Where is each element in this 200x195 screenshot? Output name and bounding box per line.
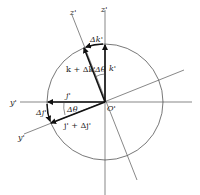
y-prime-label: y' bbox=[9, 98, 17, 107]
dj-arc bbox=[47, 104, 50, 121]
rotating-frame-diagram: z' z' y' y' O' Δk' k + Δk' Δθ k' j' Δj' … bbox=[0, 0, 200, 195]
j-plus-dj-vector bbox=[51, 102, 105, 123]
z-double-prime-label: z' bbox=[69, 8, 76, 17]
j-plus-dj-label: j' + Δj' bbox=[63, 121, 91, 130]
dk-label: Δk' bbox=[89, 35, 103, 44]
j-label: j' bbox=[64, 91, 71, 100]
dk-arc bbox=[86, 44, 103, 47]
k-plus-dk-label: k + Δk' bbox=[66, 65, 95, 74]
origin-label: O' bbox=[107, 104, 116, 113]
y-double-prime-label: y' bbox=[17, 133, 25, 142]
lower-angle-arc bbox=[64, 102, 65, 115]
dj-label: Δj' bbox=[35, 108, 46, 117]
z-prime-label: z' bbox=[100, 5, 107, 14]
lower-angle-label: Δθ bbox=[66, 105, 78, 114]
k-label: k' bbox=[109, 64, 116, 73]
k-plus-dk-vector bbox=[84, 48, 105, 102]
upper-angle-label: Δθ bbox=[94, 65, 106, 74]
